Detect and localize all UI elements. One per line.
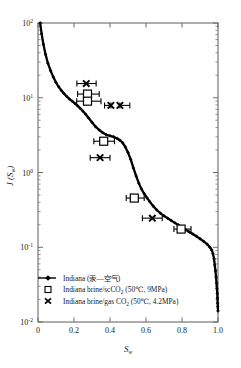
x-tick-label: 0.2: [69, 326, 79, 335]
legend-open-square-marker: [45, 287, 51, 293]
legend-item-gasco2[interactable]: Indiana brine/gas CO2 (50℃, 4.2MPa): [45, 297, 179, 307]
x-tick-label: 0.8: [177, 326, 187, 335]
legend-label-scco2: Indiana brine/scCO2 (50℃, 9MPa): [63, 285, 168, 295]
legend-label-gasco2: Indiana brine/gas CO2 (50℃, 4.2MPa): [63, 297, 179, 307]
y-axis-title: J (Sw): [5, 166, 16, 186]
chart-background: [0, 0, 241, 368]
legend-label-indiana-mercury-air: Indiana (汞—空气): [63, 274, 121, 283]
svg-text:J (Sw): J (Sw): [5, 166, 16, 186]
x-tick-label: 0.4: [105, 326, 115, 335]
capillary-pressure-j-function-chart: 10210110010-110-2 00.20.40.60.81.0 India…: [0, 0, 241, 368]
x-tick-label: 0.6: [141, 326, 151, 335]
x-tick-label: 0: [36, 326, 40, 335]
legend-item-scco2[interactable]: Indiana brine/scCO2 (50℃, 9MPa): [45, 285, 168, 295]
x-tick-label: 1.0: [213, 326, 223, 335]
figure-container: 10210110010-110-2 00.20.40.60.81.0 India…: [0, 0, 241, 368]
